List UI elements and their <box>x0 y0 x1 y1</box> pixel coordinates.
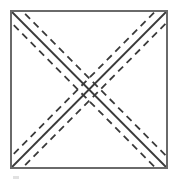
figure-canvas <box>0 0 177 182</box>
scan-artifact-mark <box>13 176 19 179</box>
figure-svg <box>0 0 177 182</box>
